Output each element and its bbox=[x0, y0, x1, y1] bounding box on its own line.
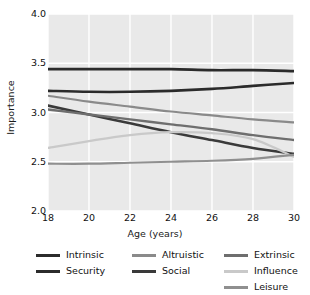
legend-swatch-icon bbox=[132, 254, 156, 257]
x-axis-ticks: 18202224262830 bbox=[0, 213, 310, 229]
y-tick-label: 4.0 bbox=[20, 9, 46, 19]
legend-item-leisure[interactable]: Leisure bbox=[224, 280, 288, 294]
legend-item-altruistic[interactable]: Altruistic bbox=[132, 248, 204, 262]
legend-swatch-icon bbox=[132, 270, 156, 273]
x-tick-label: 24 bbox=[158, 213, 184, 223]
legend-label: Influence bbox=[254, 266, 298, 276]
y-tick-label: 2.5 bbox=[20, 157, 46, 167]
legend-item-security[interactable]: Security bbox=[36, 264, 105, 278]
legend-label: Extrinsic bbox=[254, 250, 295, 260]
plot-area bbox=[48, 14, 294, 211]
legend-swatch-icon bbox=[224, 270, 248, 273]
legend-swatch-icon bbox=[224, 286, 248, 289]
y-tick-label: 3.0 bbox=[20, 108, 46, 118]
legend-item-social[interactable]: Social bbox=[132, 264, 190, 278]
legend-item-intrinsic[interactable]: Intrinsic bbox=[36, 248, 104, 262]
legend-label: Security bbox=[66, 266, 105, 276]
legend-label: Leisure bbox=[254, 282, 288, 292]
legend-swatch-icon bbox=[36, 270, 60, 273]
x-tick-label: 18 bbox=[35, 213, 61, 223]
y-tick-label: 3.5 bbox=[20, 58, 46, 68]
legend-label: Intrinsic bbox=[66, 250, 104, 260]
plot-svg bbox=[48, 14, 294, 211]
chart-legend: IntrinsicAltruisticExtrinsicSecuritySoci… bbox=[36, 248, 310, 294]
x-tick-label: 28 bbox=[240, 213, 266, 223]
x-tick-label: 26 bbox=[199, 213, 225, 223]
x-tick-label: 20 bbox=[76, 213, 102, 223]
legend-swatch-icon bbox=[36, 254, 60, 257]
x-axis-title: Age (years) bbox=[0, 228, 310, 239]
x-tick-label: 22 bbox=[117, 213, 143, 223]
x-tick-label: 30 bbox=[281, 213, 307, 223]
legend-swatch-icon bbox=[224, 254, 248, 257]
legend-label: Altruistic bbox=[162, 250, 204, 260]
legend-label: Social bbox=[162, 266, 190, 276]
legend-item-influence[interactable]: Influence bbox=[224, 264, 298, 278]
y-axis-ticks: 2.02.53.03.54.0 bbox=[14, 0, 46, 215]
line-chart: Importance 2.02.53.03.54.0 1820222426283… bbox=[0, 0, 310, 295]
legend-item-extrinsic[interactable]: Extrinsic bbox=[224, 248, 295, 262]
